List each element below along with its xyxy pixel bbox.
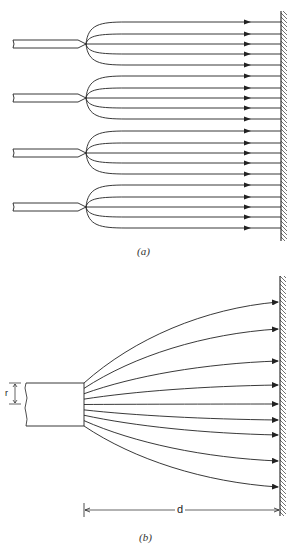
streamline — [84, 426, 278, 487]
distance-label: d — [175, 503, 185, 515]
streamline — [84, 329, 278, 388]
nozzle-break-line — [25, 383, 27, 426]
part-b-label: (b) — [139, 531, 152, 543]
streamline — [84, 302, 278, 383]
arrow-icon — [244, 20, 251, 25]
streamline — [84, 410, 278, 420]
arrow-icon — [244, 129, 251, 134]
arrow-icon — [244, 141, 251, 146]
streamline — [86, 34, 281, 44]
streamline — [86, 131, 281, 153]
arrow-icon — [244, 195, 251, 200]
wall-hatching — [280, 276, 286, 516]
part-a-label: (a) — [137, 245, 150, 257]
arrow-icon — [244, 215, 251, 220]
arrow-icon — [244, 74, 251, 79]
streamline — [86, 197, 281, 207]
streamline — [86, 22, 281, 44]
streamline — [86, 207, 281, 228]
streamline — [84, 421, 278, 461]
streamline — [84, 404, 278, 405]
arrow-icon — [244, 205, 251, 210]
streamline — [86, 88, 281, 98]
part-b-single-nozzle — [9, 276, 286, 517]
radius-label: r — [5, 388, 8, 398]
part-a-multiple-nozzles — [13, 11, 287, 241]
arrow-icon — [244, 161, 251, 166]
streamline — [84, 385, 278, 399]
arrow-icon — [244, 63, 251, 68]
flow-diagram — [0, 0, 300, 554]
nozzle — [13, 94, 86, 102]
arrow-icon — [244, 183, 251, 188]
arrow-icon — [244, 151, 251, 156]
arrow-icon — [244, 42, 251, 47]
nozzle — [13, 149, 86, 157]
arrow-icon — [244, 52, 251, 57]
streamline — [86, 76, 281, 98]
streamline — [86, 207, 281, 217]
streamline — [86, 44, 281, 65]
streamline — [86, 153, 281, 163]
streamline — [86, 98, 281, 108]
arrow-icon — [244, 226, 251, 231]
streamline — [86, 98, 281, 119]
streamline — [86, 44, 281, 54]
nozzle — [13, 40, 86, 48]
arrow-icon — [244, 32, 251, 37]
streamline — [86, 185, 281, 207]
streamline — [86, 143, 281, 153]
arrow-icon — [244, 86, 251, 91]
arrow-icon — [244, 172, 251, 177]
arrow-icon — [244, 96, 251, 101]
nozzle — [26, 383, 84, 426]
arrow-icon — [244, 106, 251, 111]
wall-hatching — [281, 11, 287, 241]
nozzle — [13, 203, 86, 211]
streamline — [86, 153, 281, 174]
arrow-icon — [244, 117, 251, 122]
